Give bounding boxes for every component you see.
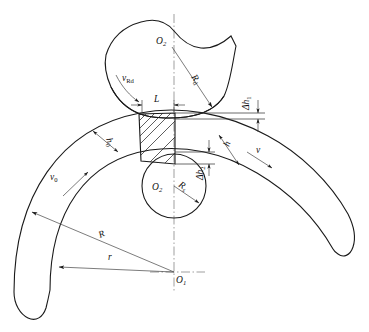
label-Rs: Rs	[175, 179, 189, 194]
dim-mandrel-radius-Rs	[174, 186, 199, 203]
label-delta-h1: Δh1	[241, 96, 252, 111]
ring-rolling-diagram: Δh1 Δh2 L O2 Rd vRd O2 Rs h0 v0 h	[0, 0, 369, 332]
label-r: r	[108, 252, 112, 262]
label-ring-center-sub: 1	[183, 279, 186, 286]
label-mandrel-center-sub: 2	[159, 186, 163, 193]
label-v0-sub: 0	[54, 176, 58, 183]
ring-right-end-wavy	[333, 214, 354, 256]
label-delta-h2: Δh2	[195, 166, 206, 181]
label-delta-h2-base: Δh	[195, 169, 205, 181]
label-ring-center: O1	[176, 275, 186, 286]
label-mandrel-center: O2	[152, 182, 163, 193]
dim-h-inner	[229, 150, 239, 165]
deformation-zone-outline	[139, 113, 175, 164]
dim-ring-inner-radius-r	[59, 267, 174, 272]
label-L: L	[153, 94, 159, 104]
dim-ring-outer-radius-R	[32, 212, 174, 272]
label-R: R	[96, 228, 106, 240]
dim-h0-outer	[93, 131, 105, 141]
label-h0-sub: 0	[105, 142, 113, 148]
label-h: h	[221, 140, 232, 148]
label-v-Rd-sub: Rd	[126, 77, 134, 84]
label-h0: h0	[103, 137, 116, 149]
label-delta-h2-sub: 2	[199, 166, 206, 169]
label-v-Rd: vRd	[122, 73, 135, 84]
diagram-root: Δh1 Δh2 L O2 Rd vRd O2 Rs h0 v0 h	[0, 0, 369, 332]
ring-left-end-wavy	[14, 290, 50, 319]
label-v: v	[256, 145, 261, 155]
label-roll-center-sub: 2	[163, 40, 167, 47]
label-delta-h1-sub: 1	[245, 96, 252, 99]
driven-roll-body	[105, 20, 236, 118]
label-roll-center: O2	[156, 36, 167, 47]
ring-outer-surface	[14, 110, 348, 292]
label-v0: v0	[50, 172, 58, 183]
label-delta-h1-base: Δh	[241, 99, 251, 111]
